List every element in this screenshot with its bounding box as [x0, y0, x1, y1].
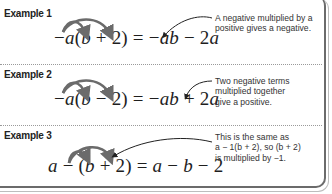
term: a: [48, 155, 58, 176]
example-3-note: This is the same as a − 1(b + 2), so (b …: [215, 132, 301, 163]
example-2-label: Example 2: [4, 69, 52, 80]
term: − 2: [179, 27, 210, 48]
divider: [0, 64, 322, 65]
note-line: Two negative terms: [215, 76, 290, 86]
term: b: [85, 155, 95, 176]
example-3-equation: a − (b + 2) = a − b − 2: [48, 155, 223, 177]
term: − 2) = −: [91, 88, 160, 109]
example-1-note: A negative multiplied by a positive give…: [215, 13, 312, 34]
term: a: [153, 155, 163, 176]
term: −: [54, 27, 65, 48]
term: + 2) =: [95, 155, 153, 176]
example-2-equation: −a(b − 2) = −ab + 2a: [54, 88, 219, 110]
note-line: multiplied together: [215, 86, 290, 96]
example-1-equation: −a(b + 2) = −ab − 2a: [54, 27, 219, 49]
note-line: This is the same as: [215, 132, 301, 142]
note-line: A negative multiplied by a: [215, 13, 312, 23]
term: a: [65, 27, 75, 48]
term: ab: [160, 27, 179, 48]
term: b: [81, 27, 91, 48]
term: b: [183, 155, 193, 176]
term: + 2) = −: [91, 27, 160, 48]
term: a: [65, 88, 75, 109]
term: −: [54, 88, 65, 109]
term: b: [81, 88, 91, 109]
term: − (: [58, 155, 85, 176]
term: + 2: [179, 88, 210, 109]
example-2-note: Two negative terms multiplied together g…: [215, 76, 290, 107]
note-line: is multiplied by −1.: [215, 153, 301, 163]
example-3-label: Example 3: [4, 130, 52, 141]
note-line: a − 1(b + 2), so (b + 2): [215, 142, 301, 152]
note-line: give a positive.: [215, 97, 290, 107]
divider: [0, 125, 322, 126]
example-1-label: Example 1: [4, 8, 52, 19]
term: ab: [160, 88, 179, 109]
note-line: positive gives a negative.: [215, 23, 312, 33]
term: −: [162, 155, 183, 176]
